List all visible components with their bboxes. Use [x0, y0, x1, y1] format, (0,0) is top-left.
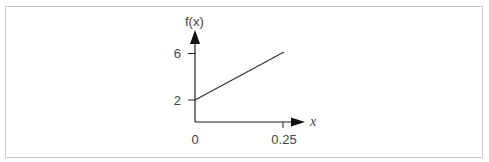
y-axis-label: f(x) [185, 14, 204, 29]
y-axis-arrow-icon [190, 30, 200, 44]
x-axis-label: x [309, 114, 317, 129]
y-tick-label-2: 2 [174, 93, 181, 108]
x-tick-label-025: 0.25 [271, 132, 296, 147]
data-line [195, 52, 284, 100]
x-tick-label-0: 0 [191, 132, 198, 147]
x-axis-arrow-icon [291, 118, 305, 127]
chart-svg: f(x) 6 2 0 0.25 x [0, 0, 489, 162]
y-tick-label-6: 6 [174, 46, 181, 61]
